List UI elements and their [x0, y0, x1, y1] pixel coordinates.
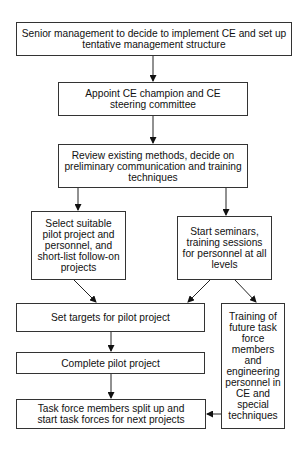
step-start-seminars: Start seminars, training sessions for pe… — [177, 216, 272, 280]
step-complete-pilot: Complete pilot project — [16, 352, 205, 374]
step-senior-management: Senior management to decide to implement… — [16, 22, 292, 56]
step-label: Appoint CE champion and CE steering comm… — [85, 88, 221, 110]
step-label: Start seminars, training sessions for pe… — [181, 226, 268, 270]
step-label: Senior management to decide to implement… — [20, 28, 288, 50]
step-label: Task force members split up and start ta… — [31, 403, 191, 425]
arrow-n4-n6 — [74, 280, 96, 302]
step-select-pilot: Select suitable pilot project and person… — [31, 211, 126, 280]
step-review-methods: Review existing methods, decide on preli… — [58, 144, 248, 188]
arrow-n5-n6 — [188, 280, 210, 302]
step-label: Complete pilot project — [61, 358, 160, 369]
step-label: Select suitable pilot project and person… — [35, 218, 122, 273]
step-appoint-champion: Appoint CE champion and CE steering comm… — [58, 82, 248, 116]
step-label: Set targets for pilot project — [51, 312, 170, 323]
step-label: Review existing methods, decide on preli… — [62, 150, 244, 183]
step-set-targets: Set targets for pilot project — [16, 303, 205, 332]
step-training-task-force: Training of future task force members an… — [221, 303, 285, 429]
step-task-force-split: Task force members split up and start ta… — [16, 399, 206, 429]
arrow-n5-n7 — [235, 280, 256, 302]
step-label: Training of future task force members an… — [224, 311, 282, 421]
